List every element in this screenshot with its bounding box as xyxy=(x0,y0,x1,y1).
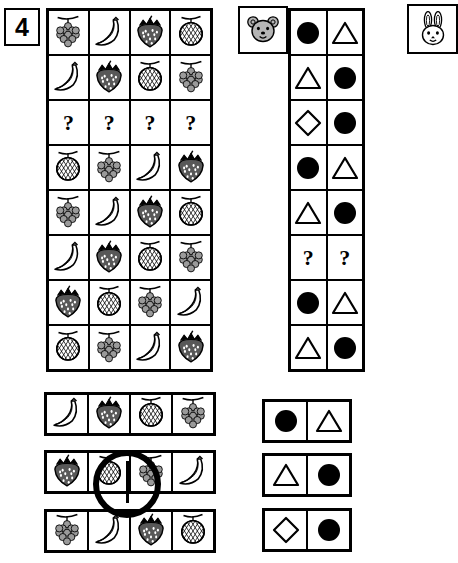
melon-glyph xyxy=(174,512,212,550)
melon-glyph xyxy=(172,14,210,52)
banana-icon xyxy=(170,280,211,325)
banana-glyph xyxy=(49,59,87,97)
banana-icon xyxy=(48,235,89,280)
bear-head-icon xyxy=(246,14,280,46)
triangle-icon xyxy=(290,325,327,370)
circle-glyph xyxy=(295,20,321,46)
strawberry-icon xyxy=(46,452,88,492)
grapes-icon xyxy=(170,235,211,280)
grapes-glyph xyxy=(90,329,128,367)
melon-glyph xyxy=(132,395,170,433)
melon-glyph xyxy=(131,59,169,97)
unknown-cell: ? xyxy=(89,100,130,145)
melon-icon xyxy=(170,10,211,55)
banana-icon xyxy=(89,10,130,55)
banana-icon xyxy=(48,55,89,100)
banana-glyph xyxy=(90,512,128,550)
banana-glyph xyxy=(174,453,212,491)
grapes-icon xyxy=(48,190,89,235)
question-mark: ? xyxy=(63,112,74,134)
melon-icon xyxy=(48,145,89,190)
fruit-answer-option-1[interactable] xyxy=(44,392,216,436)
unknown-cell: ? xyxy=(290,235,327,280)
strawberry-icon xyxy=(130,190,171,235)
strawberry-icon xyxy=(89,235,130,280)
strawberry-icon xyxy=(48,280,89,325)
melon-icon xyxy=(88,452,130,492)
fruit-answer-option-3[interactable] xyxy=(44,509,216,553)
circle-glyph xyxy=(332,110,358,136)
question-mark: ? xyxy=(104,112,115,134)
strawberry-glyph xyxy=(90,239,128,277)
triangle-glyph xyxy=(294,200,322,226)
problem-number-badge: 4 xyxy=(4,8,40,46)
triangle-icon xyxy=(327,280,364,325)
strawberry-icon xyxy=(130,10,171,55)
banana-icon xyxy=(46,394,88,434)
grapes-glyph xyxy=(132,453,170,491)
triangle-icon xyxy=(290,55,327,100)
circle-icon xyxy=(307,510,350,550)
fruit-answer-option-2[interactable] xyxy=(44,450,216,494)
strawberry-glyph xyxy=(90,395,128,433)
melon-glyph xyxy=(90,284,128,322)
diamond-icon xyxy=(290,100,327,145)
banana-glyph xyxy=(49,239,87,277)
shape-answer-option-1[interactable] xyxy=(262,399,352,443)
banana-glyph xyxy=(131,329,169,367)
grapes-glyph xyxy=(174,395,212,433)
banana-icon xyxy=(89,190,130,235)
diamond-glyph xyxy=(272,516,300,544)
strawberry-glyph xyxy=(172,329,210,367)
strawberry-glyph xyxy=(90,59,128,97)
circle-glyph xyxy=(295,155,321,181)
grapes-icon xyxy=(130,452,172,492)
melon-glyph xyxy=(49,329,87,367)
shape-answer-option-3[interactable] xyxy=(262,508,352,552)
circle-icon xyxy=(327,325,364,370)
shape-answer-option-2[interactable] xyxy=(262,453,352,497)
grapes-icon xyxy=(48,10,89,55)
circle-glyph xyxy=(332,65,358,91)
strawberry-glyph xyxy=(49,284,87,322)
circle-icon xyxy=(264,401,307,441)
grapes-icon xyxy=(46,511,88,551)
grapes-icon xyxy=(172,394,214,434)
grapes-icon xyxy=(170,55,211,100)
strawberry-icon xyxy=(170,325,211,370)
melon-glyph xyxy=(49,149,87,187)
triangle-icon xyxy=(327,145,364,190)
strawberry-icon xyxy=(88,394,130,434)
triangle-glyph xyxy=(294,335,322,361)
circle-glyph xyxy=(332,335,358,361)
grapes-glyph xyxy=(172,239,210,277)
triangle-glyph xyxy=(294,65,322,91)
grapes-glyph xyxy=(90,149,128,187)
banana-icon xyxy=(88,511,130,551)
triangle-glyph xyxy=(272,462,300,488)
unknown-cell: ? xyxy=(327,235,364,280)
banana-glyph xyxy=(131,149,169,187)
triangle-glyph xyxy=(331,20,359,46)
melon-icon xyxy=(170,190,211,235)
question-mark: ? xyxy=(339,247,350,269)
melon-icon xyxy=(130,235,171,280)
diamond-glyph xyxy=(294,109,322,137)
strawberry-glyph xyxy=(132,512,170,550)
triangle-glyph xyxy=(331,155,359,181)
question-mark: ? xyxy=(144,112,155,134)
bear-key-box xyxy=(238,6,288,54)
melon-glyph xyxy=(131,239,169,277)
melon-glyph xyxy=(90,453,128,491)
banana-icon xyxy=(172,452,214,492)
circle-glyph xyxy=(316,517,342,543)
grapes-glyph xyxy=(49,194,87,232)
strawberry-glyph xyxy=(131,14,169,52)
strawberry-glyph xyxy=(48,453,86,491)
circle-icon xyxy=(290,10,327,55)
circle-glyph xyxy=(332,200,358,226)
banana-icon xyxy=(130,145,171,190)
grapes-glyph xyxy=(48,512,86,550)
question-mark: ? xyxy=(185,112,196,134)
grapes-icon xyxy=(130,280,171,325)
